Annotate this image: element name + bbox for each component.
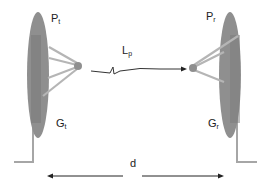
distance-arrow-right-icon [218,174,224,179]
transmit-feed-horn-icon [74,62,82,70]
receive-power-label: Pr [206,10,216,23]
antenna-link-diagram: Pt Pr Gt Gr Lp d [0,0,270,189]
wave-squiggle-icon [91,67,182,74]
transmit-dish-back-panel [31,35,41,123]
receive-dish-back-panel [230,35,240,123]
transmit-power-label: Pt [51,12,60,25]
distance-indicator [47,174,224,179]
distance-arrow-left-icon [47,174,53,179]
distance-label: d [130,157,136,169]
receive-feed-horn-icon [189,64,197,72]
transmit-gain-label: Gt [56,117,67,130]
receive-gain-label: Gr [208,117,220,130]
transmit-antenna [14,12,82,162]
path-loss-label: Lp [122,44,132,58]
propagation-path [91,67,187,75]
wave-arrowhead-icon [181,67,187,72]
receive-antenna [189,12,257,162]
